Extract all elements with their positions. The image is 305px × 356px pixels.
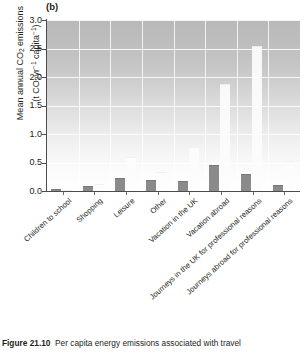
figure-container: (b) Mean annual CO2 emissions (t CO2yr−1… xyxy=(0,0,305,356)
x-axis-tickmark xyxy=(221,192,222,195)
x-axis-tick-label: Shopping xyxy=(76,197,106,225)
x-axis-tick-label: Children to school xyxy=(23,197,74,244)
bar-light-bar xyxy=(189,147,199,191)
plot-area xyxy=(47,20,300,191)
x-axis-tickmark xyxy=(158,192,159,195)
figure-caption-text: Per capita energy emissions associated w… xyxy=(55,338,241,348)
x-axis-tickmark xyxy=(94,192,95,195)
y-axis-tick-label: 3.0 xyxy=(18,16,42,25)
y-axis-tickmark xyxy=(42,106,46,107)
bar-group xyxy=(110,20,142,191)
y-axis-tick-label: 1.0 xyxy=(18,130,42,139)
bar-group xyxy=(268,20,300,191)
figure-caption: Figure 21.10 Per capita energy emissions… xyxy=(2,338,305,348)
y-axis-tickmark xyxy=(42,49,46,50)
y-axis-tick-label: 2.0 xyxy=(18,73,42,82)
x-axis-tickmark xyxy=(253,192,254,195)
x-axis-tickmark xyxy=(126,192,127,195)
y-axis-tick-label: 2.5 xyxy=(18,44,42,53)
y-axis-tick-label: 1.5 xyxy=(18,101,42,110)
panel-label: (b) xyxy=(46,1,58,12)
bar-light-bar xyxy=(220,84,230,191)
x-axis-tickmark xyxy=(63,192,64,195)
x-axis-tickmark xyxy=(284,192,285,195)
y-axis-tickmark xyxy=(42,77,46,78)
bar-group xyxy=(205,20,237,191)
bar-dark-bar xyxy=(146,180,156,191)
y-axis-tick-label: 0.5 xyxy=(18,158,42,167)
x-axis-tick-labels: Children to schoolShoppingLeisureOtherVa… xyxy=(0,191,305,331)
bar-dark-bar xyxy=(241,174,251,191)
x-axis-tickmark xyxy=(189,192,190,195)
bar-dark-bar xyxy=(115,178,125,191)
y-axis-tickmark xyxy=(42,134,46,135)
bar-group xyxy=(79,20,111,191)
bar-dark-bar xyxy=(178,181,188,191)
x-axis-tick-label: Leisure xyxy=(113,197,137,220)
bar-group xyxy=(237,20,269,191)
bar-group xyxy=(142,20,174,191)
x-axis-tick-label: Other xyxy=(149,197,169,216)
y-axis-tickmark xyxy=(42,20,46,21)
bar-dark-bar xyxy=(209,165,219,191)
y-axis-tickmark xyxy=(42,163,46,164)
bar-group xyxy=(47,20,79,191)
figure-caption-number: Figure 21.10 xyxy=(2,338,50,348)
bar-light-bar xyxy=(252,46,262,191)
bar-light-bar xyxy=(94,184,104,191)
bar-light-bar xyxy=(284,161,294,191)
bar-group xyxy=(174,20,206,191)
bar-light-bar xyxy=(157,172,167,191)
bar-light-bar xyxy=(126,157,136,191)
y-axis-tickmark xyxy=(42,191,46,192)
